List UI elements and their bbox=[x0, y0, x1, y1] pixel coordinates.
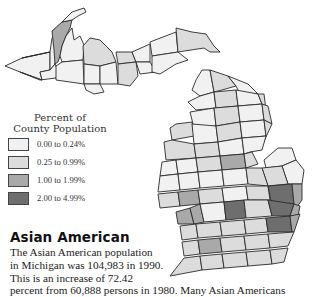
county bbox=[56, 60, 84, 84]
county bbox=[200, 202, 226, 222]
county bbox=[178, 190, 200, 206]
county bbox=[224, 200, 246, 220]
legend-label: 0.25 to 0.99% bbox=[37, 157, 85, 167]
article-paragraph: The Asian American population in Michiga… bbox=[10, 246, 310, 297]
county bbox=[164, 140, 196, 160]
county bbox=[236, 90, 262, 106]
county bbox=[290, 214, 300, 232]
county bbox=[180, 224, 198, 240]
legend-swatch bbox=[8, 174, 29, 187]
map-legend: Percent of County Population 0.00 to 0.2… bbox=[8, 112, 128, 206]
county bbox=[84, 84, 104, 94]
legend-title-line1: Percent of bbox=[4, 112, 116, 123]
county bbox=[152, 52, 188, 74]
county bbox=[222, 168, 248, 186]
county bbox=[192, 124, 218, 144]
county bbox=[62, 8, 86, 22]
county bbox=[118, 62, 138, 86]
upper-peninsula bbox=[5, 8, 220, 94]
county bbox=[100, 62, 118, 84]
paragraph-line: The Asian American population bbox=[10, 246, 310, 259]
county bbox=[238, 104, 264, 122]
legend-item-1: 0.25 to 0.99% bbox=[8, 154, 128, 170]
county bbox=[198, 170, 224, 188]
county bbox=[196, 156, 222, 172]
county bbox=[244, 200, 272, 218]
legend-label: 1.00 to 1.99% bbox=[37, 175, 85, 185]
county bbox=[214, 90, 238, 108]
county bbox=[176, 28, 220, 52]
paragraph-line: in Michigan was 104,983 in 1990. bbox=[10, 259, 310, 272]
legend-item-0: 0.00 to 0.24% bbox=[8, 136, 128, 152]
county bbox=[220, 154, 246, 170]
county bbox=[132, 44, 150, 62]
county bbox=[178, 172, 200, 190]
county bbox=[246, 186, 270, 200]
legend-item-2: 1.00 to 1.99% bbox=[8, 172, 128, 188]
county bbox=[244, 218, 268, 234]
county bbox=[176, 158, 198, 174]
county bbox=[158, 192, 180, 208]
county bbox=[196, 222, 222, 238]
legend-item-3: 2.00 to 4.99% bbox=[8, 190, 128, 206]
county bbox=[84, 64, 100, 84]
legend-swatch bbox=[8, 192, 29, 205]
county bbox=[194, 142, 220, 158]
paragraph-line: This is an increase of 72.42 bbox=[10, 272, 310, 285]
county bbox=[158, 174, 180, 192]
legend-swatch bbox=[8, 138, 29, 151]
county bbox=[266, 216, 292, 232]
legend-label: 0.00 to 0.24% bbox=[37, 139, 85, 149]
county bbox=[198, 188, 224, 204]
legend-label: 2.00 to 4.99% bbox=[37, 193, 85, 203]
legend-swatch bbox=[8, 156, 29, 169]
county bbox=[244, 152, 258, 168]
county bbox=[160, 160, 178, 176]
county bbox=[220, 220, 246, 236]
paragraph-line: percent from 60,888 persons in 1980. Man… bbox=[10, 284, 310, 297]
section-heading: Asian American bbox=[10, 229, 130, 245]
county bbox=[242, 136, 266, 154]
legend-title: Percent of County Population bbox=[4, 112, 116, 134]
county bbox=[83, 38, 116, 66]
legend-title-line2: County Population bbox=[4, 123, 116, 134]
county bbox=[240, 120, 266, 138]
county bbox=[170, 122, 194, 140]
